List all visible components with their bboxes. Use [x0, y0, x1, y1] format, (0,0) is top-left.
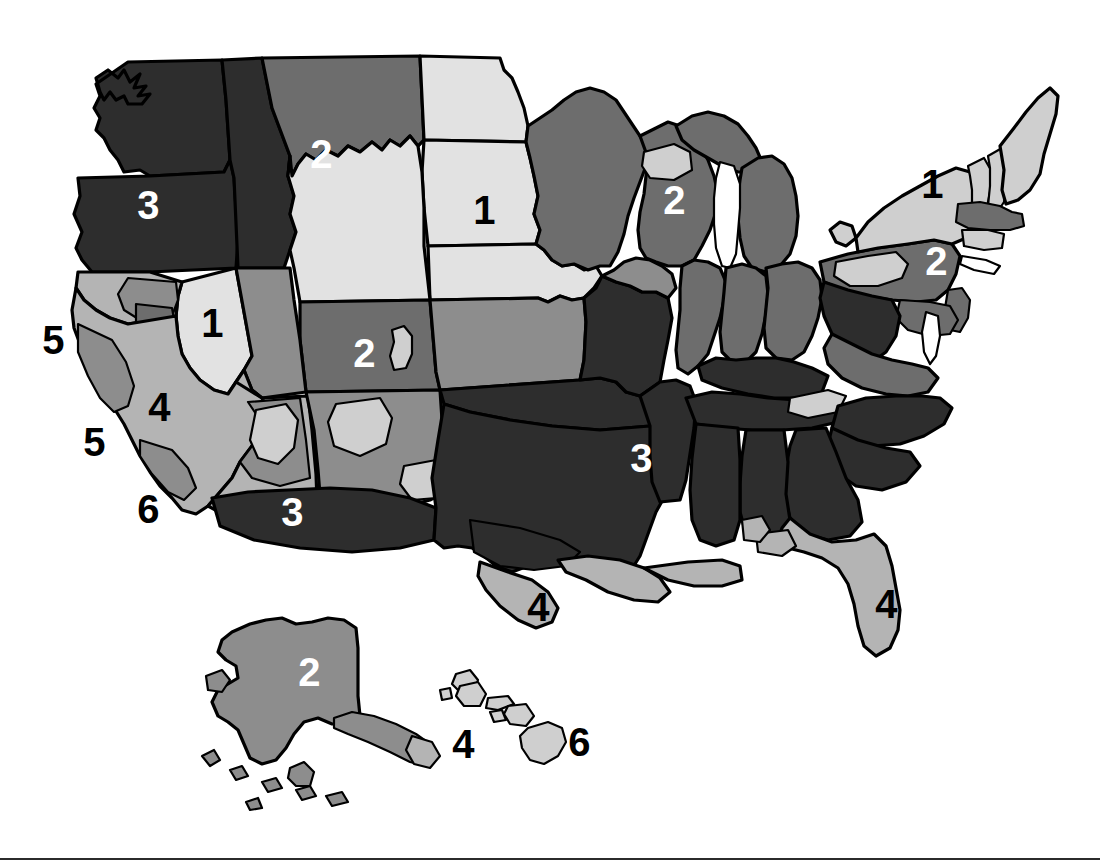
footer-divider [0, 858, 1100, 860]
hawaii-lanai[interactable] [490, 710, 506, 722]
lake-michigan [714, 162, 740, 268]
hawaii-niihau[interactable] [440, 688, 452, 700]
map-page: .st { stroke: #000000; stroke-width: 3.2… [0, 0, 1100, 865]
hawaii-oahu[interactable] [456, 682, 486, 706]
state-mississippi[interactable] [690, 424, 740, 546]
state-oregon[interactable] [74, 160, 238, 272]
state-colorado[interactable] [300, 300, 440, 392]
state-kansas[interactable] [430, 296, 586, 390]
map-svg-canvas: .st { stroke: #000000; stroke-width: 3.2… [0, 0, 1100, 865]
us-choropleth-map[interactable]: .st { stroke: #000000; stroke-width: 3.2… [0, 0, 1100, 865]
state-wyoming[interactable] [288, 136, 430, 302]
michigan-lower-peninsula[interactable] [738, 156, 798, 272]
colorado-inset-feature [390, 326, 412, 370]
wisconsin-upper-inset [642, 144, 692, 180]
state-south-dakota[interactable] [422, 140, 540, 246]
hawaii-maui[interactable] [504, 704, 534, 726]
state-connecticut-rhode-island[interactable] [962, 230, 1004, 250]
